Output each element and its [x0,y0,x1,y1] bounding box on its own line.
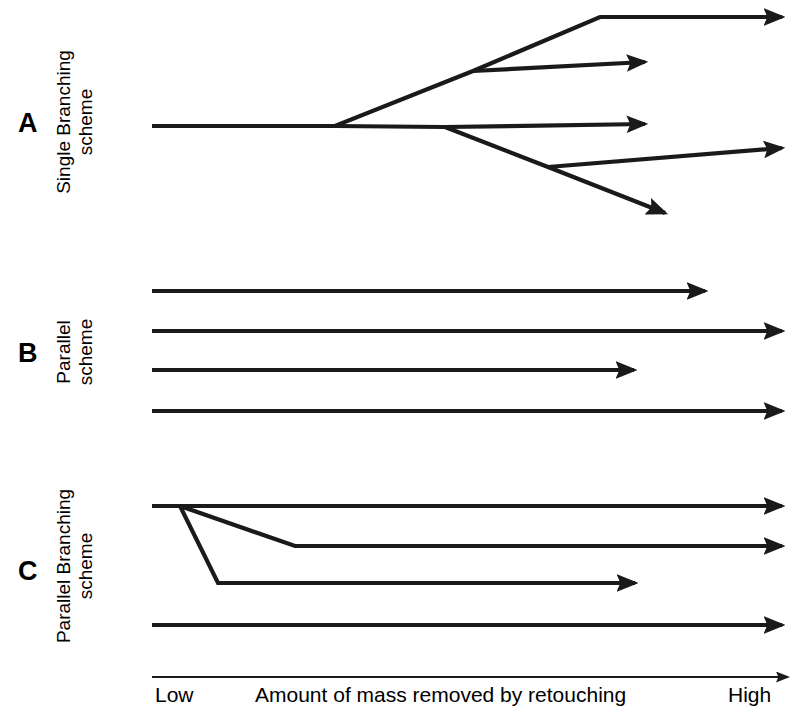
panel-caption-b: Parallel scheme [53,319,97,386]
figure-root: A Single Branching scheme B Parallel sch… [0,0,796,722]
axis-title: Amount of mass removed by retouching [255,683,626,707]
lower-sub-branch [548,148,782,167]
panel-c-lines [152,506,782,625]
trunk-middle [335,124,645,127]
shallow-branch [180,506,782,546]
panel-b-lines [152,291,782,411]
panel-caption-a: Single Branching scheme [53,50,97,194]
panel-a-lines [152,17,782,213]
trunk-to-upper-branch [152,17,782,126]
diagram-svg [0,0,796,722]
panel-label-c: C [18,558,38,585]
panel-label-b: B [18,340,38,367]
panel-caption-c: Parallel Branching scheme [53,489,97,643]
axis-label-high: High [728,683,771,707]
lower-branch [445,127,665,213]
upper-sub-branch [473,62,645,71]
panel-label-a: A [18,110,38,137]
axis-label-low: Low [155,683,194,707]
